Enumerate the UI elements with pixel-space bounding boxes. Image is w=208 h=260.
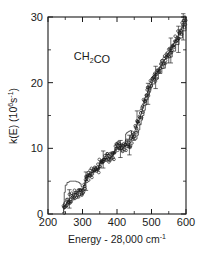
axis-ticks (48, 17, 186, 214)
error-bars (67, 14, 185, 208)
plot-annotation-molecule: CH2CO (74, 50, 111, 65)
y-tick-label: 0 (37, 208, 43, 220)
y-tick-label: 30 (31, 11, 43, 23)
x-tick-label: 500 (142, 216, 160, 228)
data-point (97, 171, 100, 174)
y-tick-label: 10 (31, 142, 43, 154)
figure-ketene-rate-constants: 2003004005006000102030 CH2CO Energy - 28… (0, 0, 208, 260)
svg-text:k(E) (106s-1): k(E) (106s-1) (7, 88, 19, 144)
data-point (97, 163, 100, 166)
svg-text:Energy - 28,000 cm-1: Energy - 28,000 cm-1 (68, 233, 166, 245)
y-tick-label: 20 (31, 77, 43, 89)
x-tick-label: 600 (177, 216, 195, 228)
axes-frame (48, 17, 186, 214)
x-axis-title: Energy - 28,000 cm-1 (68, 233, 166, 245)
x-tick-label: 400 (108, 216, 126, 228)
data-point (131, 142, 134, 145)
x-tick-label: 300 (73, 216, 91, 228)
chart-canvas: 2003004005006000102030 CH2CO Energy - 28… (0, 0, 208, 260)
y-axis-title: k(E) (106s-1) (7, 88, 19, 144)
